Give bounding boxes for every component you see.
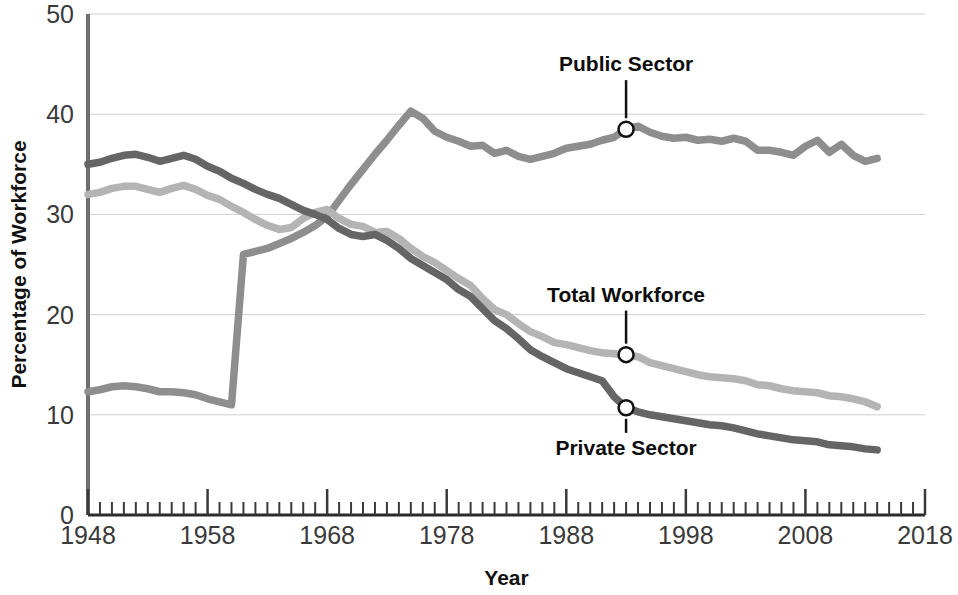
x-tick-label: 2018 [897,521,953,549]
y-tick-label: 40 [46,100,74,128]
x-tick-label: 1978 [419,521,475,549]
x-tick-label: 2008 [778,521,834,549]
series-line-public-sector [88,111,877,405]
x-tick-label: 1998 [658,521,714,549]
series-line-total-workforce [88,185,877,406]
x-tick-marks-group [88,489,925,515]
x-tick-label: 1988 [538,521,594,549]
annotation-marker [619,400,634,415]
chart-container: Public SectorTotal WorkforcePrivate Sect… [0,0,958,595]
y-tick-label: 20 [46,301,74,329]
y-tick-label: 10 [46,401,74,429]
series-annotations-group: Public SectorTotal WorkforcePrivate Sect… [547,52,705,459]
y-tick-label: 30 [46,200,74,228]
x-tick-label: 1948 [60,521,116,549]
series-label-public-sector: Public Sector [559,52,693,75]
gridlines-group [88,14,925,415]
line-chart-svg: Public SectorTotal WorkforcePrivate Sect… [0,0,958,595]
y-axis-title: Percentage of Workforce [7,140,30,388]
series-paths-group [88,111,877,450]
annotation-marker [619,122,634,137]
y-tick-label: 50 [46,0,74,28]
x-tick-label: 1968 [299,521,355,549]
x-tick-label: 1958 [180,521,236,549]
annotation-marker [619,347,634,362]
series-label-private-sector: Private Sector [555,436,696,459]
x-axis-title: Year [484,566,528,589]
series-label-total-workforce: Total Workforce [547,283,705,306]
